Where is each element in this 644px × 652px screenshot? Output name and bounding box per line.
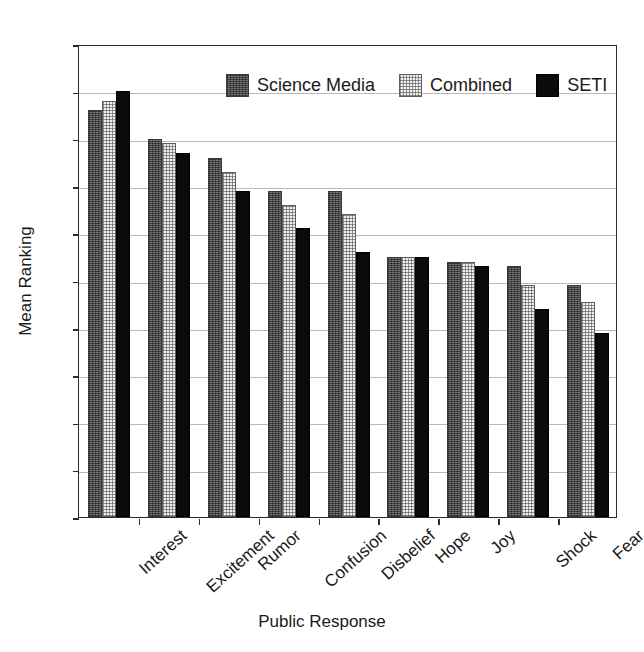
bar — [222, 172, 236, 517]
x-axis-category-label: Fear — [609, 526, 644, 564]
legend-swatch-icon — [226, 74, 249, 97]
bar — [176, 153, 190, 517]
bar — [268, 191, 282, 517]
bar — [116, 91, 130, 517]
bar — [507, 266, 521, 517]
bar — [342, 214, 356, 517]
x-axis-category-label: Disbelief — [377, 526, 439, 584]
legend-label: SETI — [567, 75, 607, 96]
legend-entry: Combined — [399, 74, 512, 97]
y-axis-tick-mark — [73, 376, 79, 378]
x-axis-category-label: Confusion — [320, 526, 390, 592]
y-axis-tick-mark — [73, 424, 79, 426]
bar — [595, 333, 609, 517]
bar — [282, 205, 296, 517]
legend-entry: Science Media — [226, 74, 375, 97]
x-axis-category-label: Shock — [552, 526, 600, 572]
legend-label: Science Media — [257, 75, 375, 96]
legend-swatch-icon — [536, 74, 559, 97]
y-axis-tick-mark — [73, 187, 79, 189]
bar — [581, 302, 595, 517]
bar — [296, 228, 310, 517]
plot-area: Science MediaCombinedSETI — [78, 45, 617, 518]
x-axis-category-label: Interest — [136, 526, 192, 579]
y-axis-tick-mark — [73, 93, 79, 95]
x-axis-tick-mark — [438, 519, 440, 525]
bar — [415, 257, 429, 517]
bar — [567, 285, 581, 517]
bar — [162, 143, 176, 517]
x-axis-tick-mark — [199, 519, 201, 525]
x-axis-tick-mark — [139, 519, 141, 525]
bar — [401, 257, 415, 517]
bar — [447, 262, 461, 517]
y-axis-title-container: Mean Ranking — [30, 45, 31, 518]
bar — [535, 309, 549, 517]
x-axis-category-label: Joy — [487, 526, 520, 559]
bar — [208, 158, 222, 517]
x-axis-tick-mark — [259, 519, 261, 525]
legend-entry: SETI — [536, 74, 607, 97]
bar — [521, 285, 535, 517]
x-axis-tick-mark — [498, 519, 500, 525]
bar — [88, 110, 102, 517]
y-axis-title: Mean Ranking — [16, 226, 36, 336]
x-axis-tick-mark — [378, 519, 380, 525]
x-axis-tick-mark — [558, 519, 560, 525]
y-axis-tick-mark — [73, 234, 79, 236]
bar — [328, 191, 342, 517]
bar — [236, 191, 250, 517]
chart-figure: Mean Ranking 012345678910 Science MediaC… — [0, 0, 644, 652]
bar — [475, 266, 489, 517]
bar — [387, 257, 401, 517]
bar — [461, 262, 475, 517]
y-axis-tick-mark — [73, 282, 79, 284]
y-axis-tick-mark — [73, 329, 79, 331]
y-axis-tick-mark — [73, 45, 79, 47]
legend-label: Combined — [430, 75, 512, 96]
bar — [356, 252, 370, 517]
x-axis-tick-mark — [319, 519, 321, 525]
y-axis-tick-mark — [73, 471, 79, 473]
legend-swatch-icon — [399, 74, 422, 97]
y-axis-tick-mark — [73, 140, 79, 142]
x-axis-category-label: Hope — [431, 526, 475, 568]
y-axis-tick-mark — [73, 518, 79, 520]
x-axis-title: Public Response — [0, 612, 644, 632]
bar — [102, 101, 116, 517]
bar — [148, 139, 162, 517]
chart-legend: Science MediaCombinedSETI — [226, 74, 621, 97]
